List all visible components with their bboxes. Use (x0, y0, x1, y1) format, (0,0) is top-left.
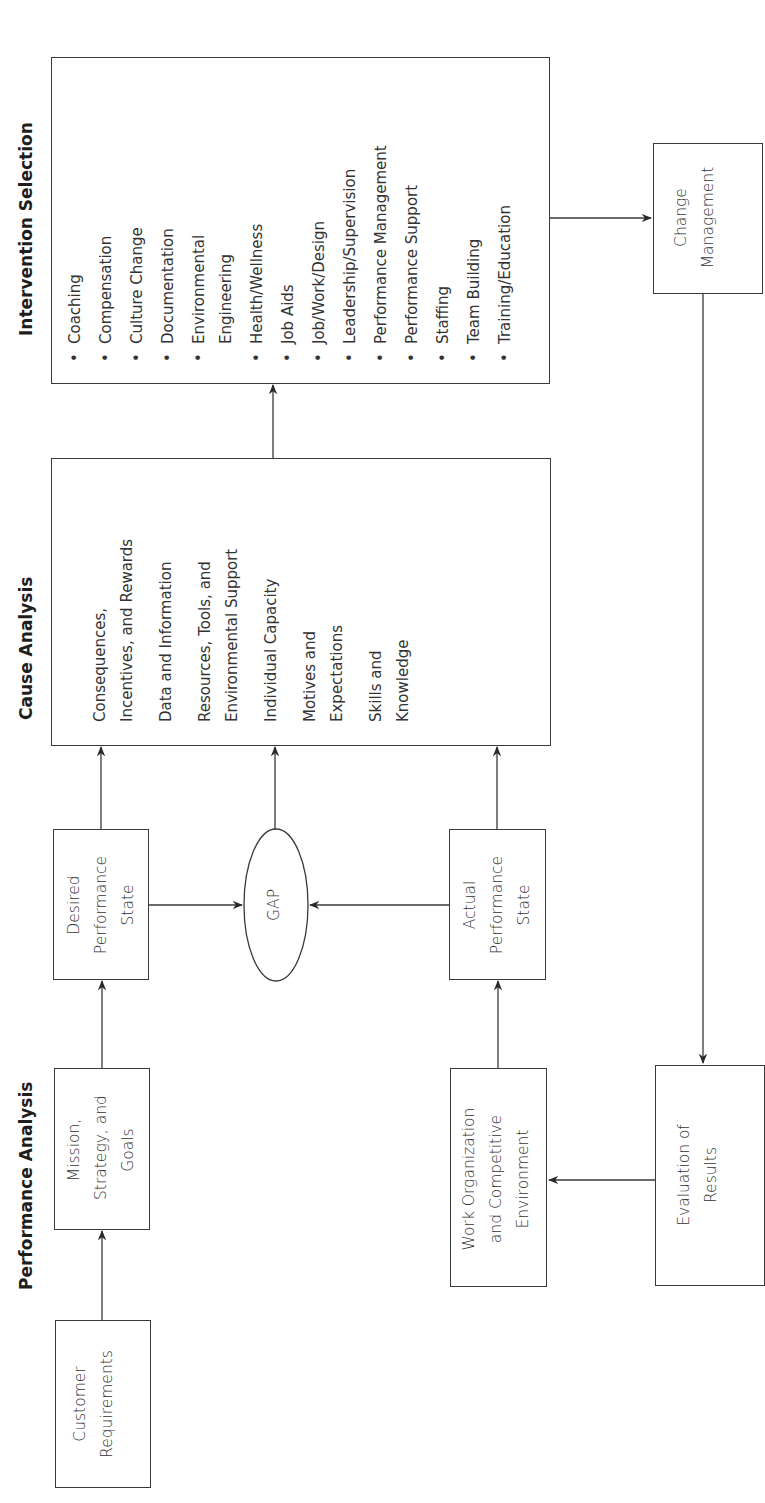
factor-line: Environmental Support (224, 539, 241, 722)
label-line: Environment (515, 1094, 532, 1264)
item-text: Job Aids (277, 284, 300, 344)
heading-cause-analysis: Cause Analysis (16, 577, 36, 720)
label-line: Results (703, 1105, 720, 1245)
gap-label: GAP (266, 885, 283, 925)
label-line: Goals (120, 1100, 137, 1200)
intervention-item: •Environmental (188, 145, 211, 362)
factor-line: Expectations (329, 539, 346, 722)
factor-line: Data and Information (158, 539, 175, 722)
label-line: Desired (66, 855, 83, 955)
intervention-item: •Leadership/Supervision (339, 145, 362, 362)
cause-factor: Data and Information (158, 539, 175, 722)
item-text: Compensation (95, 236, 118, 344)
label-line: Mission, (66, 1100, 83, 1200)
label-line: Customer (72, 1339, 89, 1469)
label-line: Actual (462, 855, 479, 955)
label-line: State (120, 855, 137, 955)
bullet-icon: • (463, 344, 486, 362)
intervention-item: •Performance Management (370, 145, 393, 362)
intervention-item: •Documentation (157, 145, 180, 362)
factor-line: Knowledge (395, 539, 412, 722)
cause-factor: Motives and Expectations (302, 539, 346, 722)
label-line: Evaluation of (676, 1105, 693, 1245)
bullet-icon: • (95, 344, 118, 362)
bullet-icon: • (126, 344, 149, 362)
label-line: Performance (93, 855, 110, 955)
intervention-item: •Staffing (432, 145, 455, 362)
factor-line: Individual Capacity (263, 539, 280, 722)
actual-label: Actual Performance State (462, 855, 533, 955)
bullet-icon: • (277, 344, 300, 362)
bullet-icon: • (246, 344, 269, 362)
factor-line: Resources, Tools, and (197, 539, 214, 722)
customer-requirements-label: Customer Requirements (72, 1339, 116, 1469)
factor-line: Consequences, (92, 539, 109, 722)
bullet-icon: • (157, 344, 180, 362)
work-org-label: Work Organization and Competitive Enviro… (461, 1094, 532, 1264)
intervention-item: •Team Building (463, 145, 486, 362)
intervention-item: •Job Aids (277, 145, 300, 362)
bullet-icon: • (494, 344, 517, 362)
bullet-icon: • (308, 344, 331, 362)
bullet-icon: • (64, 344, 87, 362)
factor-line: Incentives, and Rewards (119, 539, 136, 722)
bullet-icon: • (188, 344, 211, 362)
label-line: State (516, 855, 533, 955)
evaluation-label: Evaluation of Results (676, 1105, 720, 1245)
item-text: Team Building (463, 239, 486, 344)
heading-intervention-selection: Intervention Selection (16, 122, 36, 336)
item-text: Environmental (188, 235, 211, 344)
bullet-icon: • (401, 344, 424, 362)
cause-factor: Consequences, Incentives, and Rewards (92, 539, 136, 722)
label-line: Work Organization (461, 1094, 478, 1264)
intervention-item: •Health/Wellness (246, 145, 269, 362)
intervention-item: •Performance Support (401, 145, 424, 362)
factor-line: Skills and (368, 539, 385, 722)
cause-factor-list: Consequences, Incentives, and Rewards Da… (92, 539, 427, 722)
intervention-item: •Job/Work/Design (308, 145, 331, 362)
item-text-continued: Engineering (215, 145, 238, 362)
item-text: Training/Education (494, 205, 517, 344)
label-line: and Competitive (488, 1094, 505, 1264)
label-line: Change (673, 160, 690, 275)
label-line: Performance (489, 855, 506, 955)
item-text: Job/Work/Design (308, 221, 331, 344)
bullet-icon: • (432, 344, 455, 362)
bullet-icon: • (339, 344, 362, 362)
label-line: Strategy, and (93, 1100, 110, 1200)
change-management-label: Change Management (673, 160, 717, 275)
cause-factor: Skills and Knowledge (368, 539, 412, 722)
intervention-list: •Coaching •Compensation •Culture Change … (64, 145, 517, 362)
label-line: Management (700, 160, 717, 275)
item-text: Documentation (157, 228, 180, 344)
intervention-item: •Training/Education (494, 145, 517, 362)
factor-line: Motives and (302, 539, 319, 722)
cause-factor: Resources, Tools, and Environmental Supp… (197, 539, 241, 722)
item-text: Culture Change (126, 227, 149, 344)
intervention-item: •Coaching (64, 145, 87, 362)
item-text: Health/Wellness (246, 224, 269, 344)
mission-label: Mission, Strategy, and Goals (66, 1100, 137, 1200)
cause-factor: Individual Capacity (263, 539, 280, 722)
item-text: Leadership/Supervision (339, 169, 362, 344)
bullet-icon: • (370, 344, 393, 362)
item-text: Performance Management (370, 145, 393, 344)
intervention-item: •Culture Change (126, 145, 149, 362)
item-text: Staffing (432, 286, 455, 344)
desired-label: Desired Performance State (66, 855, 137, 955)
intervention-item: •Compensation (95, 145, 118, 362)
heading-performance-analysis: Performance Analysis (16, 1082, 36, 1290)
item-text: Performance Support (401, 185, 424, 344)
item-text: Coaching (64, 274, 87, 344)
label-line: Requirements (99, 1339, 116, 1469)
